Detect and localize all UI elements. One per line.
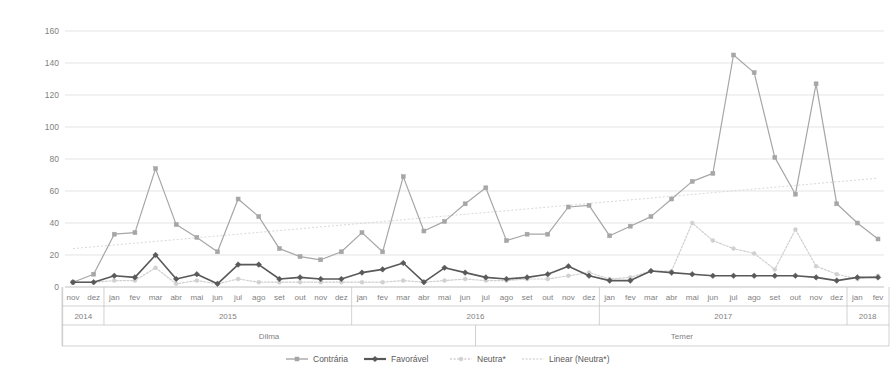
- x-axis-year-label: 2016: [467, 312, 485, 321]
- series-point-contr-ria: [484, 186, 488, 190]
- series-point-contr-ria: [133, 231, 137, 235]
- x-axis-month-label: set: [769, 293, 780, 302]
- y-axis-tick-40: 40: [50, 218, 60, 228]
- x-axis-month-label: fev: [873, 293, 884, 302]
- x-axis-month-label: nov: [562, 293, 575, 302]
- series-point-contr-ria: [401, 175, 405, 179]
- x-axis-month-label: jul: [233, 293, 242, 302]
- x-axis-month-label: jul: [481, 293, 490, 302]
- series-point-favor-vel: [483, 275, 489, 281]
- series-point-contr-ria: [92, 272, 96, 276]
- series-point-contr-ria: [546, 232, 550, 236]
- trendline-neutra: [73, 178, 878, 248]
- x-axis-month-label: jan: [356, 293, 368, 302]
- x-axis-month-label: ago: [747, 293, 761, 302]
- series-point-neutra-: [236, 277, 240, 281]
- x-axis-month-label: mar: [644, 293, 658, 302]
- legend-label-2: Neutra*: [477, 354, 507, 364]
- series-point-favor-vel: [545, 271, 551, 277]
- series-point-neutra-: [793, 227, 797, 231]
- series-line-contr-ria: [73, 55, 878, 282]
- series-point-contr-ria: [443, 219, 447, 223]
- x-axis-month-label: mai: [190, 293, 203, 302]
- x-axis-month-label: ago: [252, 293, 266, 302]
- x-axis-month-label: mai: [686, 293, 699, 302]
- x-axis-year-label: 2018: [859, 312, 877, 321]
- y-axis-tick-60: 60: [50, 186, 60, 196]
- series-point-contr-ria: [298, 255, 302, 259]
- x-axis-month-label: set: [522, 293, 533, 302]
- series-point-contr-ria: [628, 224, 632, 228]
- series-point-contr-ria: [154, 167, 158, 171]
- series-point-neutra-: [732, 247, 736, 251]
- x-axis-month-label: out: [542, 293, 554, 302]
- x-axis-month-label: abr: [170, 293, 182, 302]
- chart-plot-area: 020406080100120140160novdezjanfevmarabrm…: [0, 0, 891, 378]
- series-point-neutra-: [154, 266, 158, 270]
- series-point-neutra-: [752, 251, 756, 255]
- y-axis-tick-20: 20: [50, 250, 60, 260]
- x-axis-month-label: nov: [810, 293, 823, 302]
- x-axis-month-label: fev: [625, 293, 636, 302]
- series-point-contr-ria: [711, 171, 715, 175]
- series-point-neutra-: [401, 279, 405, 283]
- series-point-favor-vel: [813, 275, 819, 281]
- chart-svg: 020406080100120140160novdezjanfevmarabrm…: [0, 0, 891, 378]
- series-point-neutra-: [360, 280, 364, 284]
- series-point-contr-ria: [752, 71, 756, 75]
- series-point-neutra-: [443, 279, 447, 283]
- series-point-contr-ria: [649, 215, 653, 219]
- series-point-favor-vel: [772, 273, 778, 279]
- x-axis-month-label: jun: [459, 293, 471, 302]
- x-axis-month-label: jun: [707, 293, 719, 302]
- x-axis-month-label: set: [274, 293, 285, 302]
- series-point-contr-ria: [525, 232, 529, 236]
- series-point-contr-ria: [195, 235, 199, 239]
- series-point-favor-vel: [648, 268, 654, 274]
- y-axis-tick-80: 80: [50, 154, 60, 164]
- series-point-neutra-: [566, 274, 570, 278]
- series-point-favor-vel: [194, 271, 200, 277]
- series-point-contr-ria: [174, 223, 178, 227]
- series-point-contr-ria: [319, 258, 323, 262]
- x-axis-month-label: jul: [729, 293, 738, 302]
- series-point-neutra-: [112, 279, 116, 283]
- series-point-favor-vel: [297, 275, 303, 281]
- x-axis-month-label: mar: [396, 293, 410, 302]
- series-point-contr-ria: [814, 82, 818, 86]
- x-axis-government-label: Dilma: [259, 332, 280, 341]
- x-axis-government-label: Temer: [671, 332, 694, 341]
- x-axis-year-label: 2015: [219, 312, 237, 321]
- x-axis-month-label: out: [294, 293, 306, 302]
- series-point-neutra-: [381, 280, 385, 284]
- series-point-favor-vel: [731, 273, 737, 279]
- series-point-contr-ria: [463, 202, 467, 206]
- series-point-contr-ria: [793, 192, 797, 196]
- series-point-favor-vel: [318, 276, 324, 282]
- x-axis-month-label: dez: [335, 293, 348, 302]
- legend-marker-2: [459, 357, 463, 361]
- series-point-contr-ria: [381, 250, 385, 254]
- series-point-contr-ria: [257, 215, 261, 219]
- series-point-contr-ria: [277, 247, 281, 251]
- series-point-favor-vel: [628, 278, 634, 284]
- x-axis-month-label: nov: [67, 293, 80, 302]
- x-axis-month-label: abr: [418, 293, 430, 302]
- series-point-favor-vel: [834, 278, 840, 284]
- series-point-neutra-: [835, 272, 839, 276]
- series-point-favor-vel: [793, 273, 799, 279]
- x-axis-month-label: jan: [851, 293, 863, 302]
- x-axis-month-label: dez: [583, 293, 596, 302]
- x-axis-month-label: mai: [438, 293, 451, 302]
- series-point-favor-vel: [751, 273, 757, 279]
- legend-label-0: Contrária: [313, 354, 348, 364]
- series-point-favor-vel: [462, 270, 468, 276]
- series-point-favor-vel: [359, 270, 365, 276]
- x-axis-month-label: mar: [149, 293, 163, 302]
- series-point-contr-ria: [608, 234, 612, 238]
- y-axis-tick-160: 160: [45, 26, 59, 36]
- series-point-favor-vel: [586, 273, 592, 279]
- x-axis-month-label: jan: [108, 293, 120, 302]
- legend-label-3: Linear (Neutra*): [549, 354, 610, 364]
- x-axis-month-label: fev: [377, 293, 388, 302]
